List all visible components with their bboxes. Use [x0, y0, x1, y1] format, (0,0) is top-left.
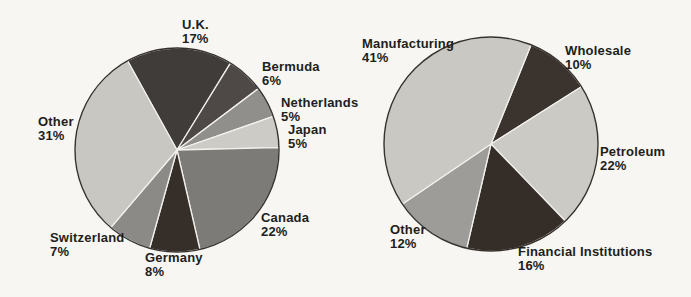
slice-name: Financial Institutions [518, 245, 652, 259]
slice-pct: 7% [50, 245, 124, 259]
slice-name: Switzerland [50, 231, 124, 245]
slice-pct: 5% [288, 137, 327, 151]
slice-pct: 6% [262, 74, 320, 88]
slice-pct: 10% [565, 58, 631, 72]
slice-name: Japan [288, 123, 327, 137]
label-financial-institutions: Financial Institutions 16% [518, 245, 652, 273]
label-switzerland: Switzerland 7% [50, 231, 124, 259]
slice-name: U.K. [182, 18, 209, 32]
slice-name: Petroleum [600, 145, 665, 159]
label-other-country: Other 31% [38, 115, 74, 143]
slice-pct: 41% [362, 51, 454, 65]
label-netherlands: Netherlands 5% [281, 96, 358, 124]
slice-name: Canada [261, 211, 309, 225]
slice-pct: 12% [390, 237, 426, 251]
label-petroleum: Petroleum 22% [600, 145, 665, 173]
label-other-industry: Other 12% [390, 223, 426, 251]
pie-chart-by-country [75, 48, 279, 252]
slice-name: Netherlands [281, 96, 358, 110]
label-wholesale: Wholesale 10% [565, 44, 631, 72]
slice-name: Other [38, 115, 74, 129]
slice-pct: 8% [145, 265, 203, 279]
slice-pct: 22% [600, 159, 665, 173]
slice-pct: 17% [182, 32, 209, 46]
slice-pct: 16% [518, 259, 652, 273]
label-manufacturing: Manufacturing 41% [362, 37, 454, 65]
slice-name: Bermuda [262, 60, 320, 74]
slice-name: Other [390, 223, 426, 237]
slice-name: Manufacturing [362, 37, 454, 51]
foreign-ownership-pie-charts: U.K. 17% Bermuda 6% Netherlands 5% Japan… [0, 0, 691, 297]
slice-pct: 22% [261, 225, 309, 239]
slice-name: Germany [145, 251, 203, 265]
label-canada: Canada 22% [261, 211, 309, 239]
slice-name: Wholesale [565, 44, 631, 58]
label-bermuda: Bermuda 6% [262, 60, 320, 88]
slice-pct: 31% [38, 129, 74, 143]
label-japan: Japan 5% [288, 123, 327, 151]
label-uk: U.K. 17% [182, 18, 209, 46]
label-germany: Germany 8% [145, 251, 203, 279]
